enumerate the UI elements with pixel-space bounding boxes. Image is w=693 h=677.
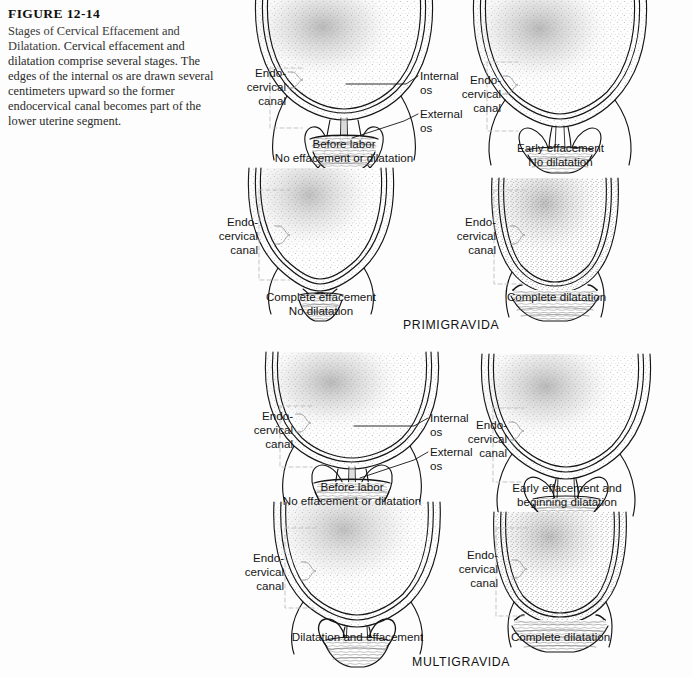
caption-multi-before-labor: Before labor No effacement or dilatation (252, 480, 452, 508)
label-endocervical-canal-multi-dil-eff: Endo- cervical canal (220, 551, 284, 593)
label-line: canal (222, 94, 286, 108)
label-line: cervical (432, 229, 496, 243)
caption-line: Before labor (252, 480, 452, 494)
caption-line: Before labor (244, 137, 444, 151)
caption-line: Complete effacement (230, 290, 412, 304)
label-line: Endo- (432, 215, 496, 229)
label-endocervical-canal-multi-early: Endo- cervical canal (443, 418, 507, 460)
label-line: Endo- (437, 73, 501, 87)
label-line: cervical (222, 80, 286, 94)
label-line: canal (432, 243, 496, 257)
label-line: Endo- (443, 418, 507, 432)
label-line: os (430, 459, 473, 473)
caption-multi-early-effacement: Early effacement and beginning dilatatio… (482, 481, 652, 509)
section-title-primigravida: PRIMIGRAVIDA (403, 318, 499, 332)
label-line: Endo- (220, 551, 284, 565)
running-head (404, 0, 693, 5)
figure-number: FIGURE 12-14 (8, 6, 220, 22)
caption-line: Complete dilatation (474, 290, 639, 304)
label-endocervical-canal-primi-early: Endo- cervical canal (437, 73, 501, 115)
caption-multi-complete-dilatation: Complete dilatation (478, 630, 643, 644)
caption-primi-early-effacement: Early effacement No dilatation (478, 141, 643, 169)
label-line: cervical (434, 562, 498, 576)
caption-line: beginning dilatation (482, 495, 652, 509)
caption-primi-complete-effacement: Complete effacement No dilatation (230, 290, 412, 318)
caption-line: Dilatation and effacement (270, 630, 445, 644)
label-line: canal (434, 576, 498, 590)
label-line: Endo- (194, 215, 258, 229)
label-line: os (420, 121, 463, 135)
label-line: cervical (437, 87, 501, 101)
figure-caption-block: FIGURE 12-14 Stages of Cervical Effaceme… (8, 6, 220, 129)
caption-line: No dilatation (478, 155, 643, 169)
section-title-multigravida: MULTIGRAVIDA (412, 655, 510, 669)
caption-line: No effacement or dilatation (252, 494, 452, 508)
label-line: Endo- (434, 548, 498, 562)
label-endocervical-canal-multi-complete-dil: Endo- cervical canal (434, 548, 498, 590)
caption-primi-complete-dilatation: Complete dilatation (474, 290, 639, 304)
figure-caption-text: Stages of Cervical Effacement and Dilata… (8, 24, 220, 129)
caption-primi-before-labor: Before labor No effacement or dilatation (244, 137, 444, 165)
label-line: cervical (443, 432, 507, 446)
label-line: canal (220, 579, 284, 593)
label-line: canal (194, 243, 258, 257)
label-endocervical-canal-multi-before-labor: Endo- cervical canal (229, 409, 293, 451)
caption-line: No effacement or dilatation (244, 151, 444, 165)
label-line: cervical (194, 229, 258, 243)
label-line: Endo- (229, 409, 293, 423)
label-line: canal (443, 446, 507, 460)
label-endocervical-canal-primi-complete-eff: Endo- cervical canal (194, 215, 258, 257)
caption-multi-dilatation-effacement: Dilatation and effacement (270, 630, 445, 644)
label-line: canal (437, 101, 501, 115)
caption-line: No dilatation (230, 304, 412, 318)
label-line: cervical (229, 423, 293, 437)
label-line: canal (229, 437, 293, 451)
caption-line: Early effacement (478, 141, 643, 155)
label-endocervical-canal-primi-complete-dil: Endo- cervical canal (432, 215, 496, 257)
label-endocervical-canal-primi-before-labor: Endo- cervical canal (222, 66, 286, 108)
label-line: Endo- (222, 66, 286, 80)
caption-line: Complete dilatation (478, 630, 643, 644)
caption-line: Early effacement and (482, 481, 652, 495)
label-line: cervical (220, 565, 284, 579)
